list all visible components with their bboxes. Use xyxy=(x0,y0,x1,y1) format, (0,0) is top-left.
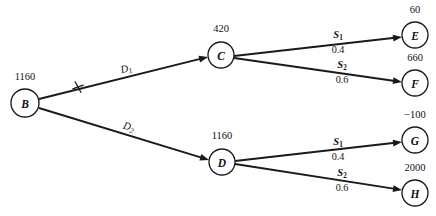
branch-label-subscript: 1 xyxy=(128,65,134,75)
branch-label-D-H: S2 xyxy=(337,167,347,180)
node-letter-C: C xyxy=(217,50,225,62)
arrow-head-B-D xyxy=(199,154,209,161)
node-layer: BCDEFGH xyxy=(11,22,428,206)
node-B[interactable]: B xyxy=(11,89,39,117)
node-F[interactable]: F xyxy=(402,70,428,96)
branch-label-subscript: 2 xyxy=(343,64,347,72)
node-letter-H: H xyxy=(410,188,421,200)
branch-probability-C-F: 0.6 xyxy=(336,74,349,85)
arrow-head-C-E xyxy=(393,35,402,42)
branch-label-subscript: 2 xyxy=(343,172,347,180)
branch-label-C-E: S1 xyxy=(333,29,343,42)
node-value-C: 420 xyxy=(213,23,229,34)
node-value-B: 1160 xyxy=(15,71,36,82)
branch-D-H[interactable] xyxy=(235,164,402,192)
branch-label-subscript: 1 xyxy=(339,34,343,42)
node-value-D: 1160 xyxy=(212,130,233,141)
node-value-G: −100 xyxy=(404,109,426,120)
node-letter-F: F xyxy=(410,78,419,90)
node-C[interactable]: C xyxy=(208,42,234,68)
node-letter-D: D xyxy=(217,157,227,169)
node-H[interactable]: H xyxy=(402,180,428,206)
branch-line-C-F xyxy=(234,58,395,81)
arrow-head-D-G xyxy=(393,140,402,147)
node-G[interactable]: G xyxy=(402,127,428,153)
node-value-F: 660 xyxy=(407,52,423,63)
arrow-head-B-C xyxy=(198,56,208,63)
branch-D-G[interactable] xyxy=(235,140,402,161)
node-letter-E: E xyxy=(410,30,419,42)
branch-B-C[interactable] xyxy=(39,56,208,99)
node-letter-G: G xyxy=(411,135,420,147)
branch-label-B-C: D1 xyxy=(118,62,133,77)
branch-B-D[interactable] xyxy=(39,108,209,161)
branch-label-D-G: S1 xyxy=(333,136,343,149)
branch-probability-D-H: 0.6 xyxy=(336,182,349,193)
branch-label-subscript: 2 xyxy=(129,125,135,135)
branch-probability-D-G: 0.4 xyxy=(332,151,345,162)
branch-line-C-E xyxy=(234,38,395,56)
branch-label-C-F: S2 xyxy=(337,59,347,72)
arrow-head-C-F xyxy=(393,77,402,84)
node-value-E: 60 xyxy=(410,4,421,15)
branch-C-F[interactable] xyxy=(234,58,402,84)
node-letter-B: B xyxy=(20,98,29,110)
decision-tree-canvas: BCDEFGH D1D2S10.4S20.6S10.4S20.611604201… xyxy=(0,0,436,216)
decision-tree-diagram: BCDEFGH D1D2S10.4S20.6S10.4S20.611604201… xyxy=(0,0,436,216)
node-D[interactable]: D xyxy=(209,149,235,175)
branch-C-E[interactable] xyxy=(234,35,402,56)
branch-label-subscript: 1 xyxy=(339,141,343,149)
branch-line-D-H xyxy=(235,164,395,189)
branch-probability-C-E: 0.4 xyxy=(332,44,345,55)
arrow-head-D-H xyxy=(393,185,402,192)
branch-line-D-G xyxy=(235,143,395,161)
node-value-H: 2000 xyxy=(405,162,426,173)
branch-line-B-D xyxy=(39,108,202,158)
node-E[interactable]: E xyxy=(402,22,428,48)
